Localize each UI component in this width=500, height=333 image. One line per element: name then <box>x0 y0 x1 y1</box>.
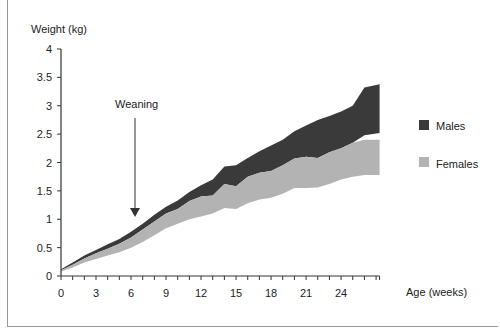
legend-swatch-males <box>419 120 429 130</box>
x-tick-label: 9 <box>163 287 169 299</box>
weight-growth-area-chart: 00.511.522.533.5403691215182124 Weight (… <box>0 0 500 333</box>
y-tick-label: 3.5 <box>37 71 52 83</box>
legend: Males Females <box>419 120 479 170</box>
weaning-arrow-icon <box>130 208 140 217</box>
x-tick-label: 3 <box>93 287 99 299</box>
y-axis-label: Weight (kg) <box>31 23 87 35</box>
x-tick-label: 6 <box>128 287 134 299</box>
x-tick-label: 18 <box>265 287 277 299</box>
y-tick-label: 1 <box>46 213 52 225</box>
y-tick-label: 0.5 <box>37 242 52 254</box>
y-tick-label: 0 <box>46 270 52 282</box>
plot-areas <box>61 84 380 271</box>
area-females <box>61 140 380 272</box>
weaning-annotation: Weaning <box>115 98 158 217</box>
x-axis-label: Age (weeks) <box>406 286 467 298</box>
legend-swatch-females <box>419 157 429 167</box>
y-tick-label: 1.5 <box>37 185 52 197</box>
x-tick-label: 15 <box>230 287 242 299</box>
legend-label-females: Females <box>436 158 479 170</box>
y-tick-label: 2 <box>46 157 52 169</box>
legend-label-males: Males <box>436 120 466 132</box>
x-tick-label: 24 <box>335 287 347 299</box>
y-tick-label: 3 <box>46 100 52 112</box>
x-tick-label: 0 <box>58 287 64 299</box>
x-tick-label: 12 <box>195 287 207 299</box>
y-tick-label: 4 <box>46 43 52 55</box>
x-tick-label: 21 <box>300 287 312 299</box>
y-tick-label: 2.5 <box>37 128 52 140</box>
weaning-label: Weaning <box>115 98 158 110</box>
